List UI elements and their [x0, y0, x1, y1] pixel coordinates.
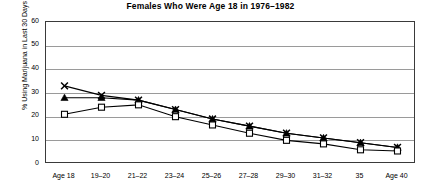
series-layer [46, 22, 416, 164]
data-point-square [136, 102, 142, 108]
y-tick-label: 0 [13, 159, 39, 166]
y-tick-label: 20 [13, 111, 39, 118]
data-point-square [99, 104, 105, 110]
series-line-triangle [65, 98, 398, 148]
series-line-square [65, 105, 398, 151]
data-point-square [284, 137, 290, 143]
chart-title: Females Who Were Age 18 in 1976–1982 [0, 1, 421, 11]
data-point-square [321, 141, 327, 147]
data-point-square [173, 114, 179, 120]
data-point-square [62, 111, 68, 117]
y-tick-label: 10 [13, 135, 39, 142]
y-tick-label: 30 [13, 88, 39, 95]
data-point-x [61, 83, 68, 90]
y-tick-label: 50 [13, 40, 39, 47]
series-line-x [65, 86, 398, 148]
data-point-square [210, 122, 216, 128]
plot-area [45, 21, 415, 163]
data-point-square [358, 147, 364, 153]
data-point-square [247, 130, 253, 136]
chart-container: Females Who Were Age 18 in 1976–1982 % U… [0, 0, 421, 194]
y-tick-label: 40 [13, 64, 39, 71]
x-tick-label: Age 40 [372, 172, 421, 179]
y-tick-label: 60 [13, 17, 39, 24]
data-point-square [395, 148, 401, 154]
